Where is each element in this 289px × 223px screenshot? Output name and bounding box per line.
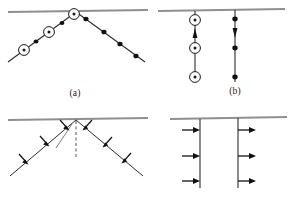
polarization-arrow xyxy=(238,127,256,133)
circled-dot-marker xyxy=(69,9,80,20)
panel-d-diagram xyxy=(150,108,289,196)
up-arrow-b xyxy=(193,28,198,38)
circled-dot-marker xyxy=(190,15,201,26)
interface-surface-d xyxy=(170,117,287,119)
circled-dot-marker xyxy=(44,27,55,38)
panel-b: (b) xyxy=(150,0,289,90)
polarization-arrow xyxy=(40,136,50,147)
filled-dot-marker xyxy=(232,75,237,80)
filled-dot-marker xyxy=(232,46,237,51)
polarization-arrow xyxy=(182,153,200,159)
circled-dot-marker xyxy=(19,45,30,56)
panel-d: (d) xyxy=(150,108,289,196)
interface-surface-b xyxy=(158,9,285,11)
physics-figure: (a) xyxy=(0,0,289,223)
polarization-arrow xyxy=(182,178,200,184)
filled-dot-marker xyxy=(34,39,39,43)
interface-surface-c xyxy=(8,118,148,120)
filled-dot-marker xyxy=(101,30,106,35)
circled-dot-marker xyxy=(190,72,201,83)
filled-dot-marker xyxy=(232,17,237,22)
polarization-arrow xyxy=(19,154,29,165)
filled-dot-marker xyxy=(133,54,138,59)
filled-dot-marker xyxy=(60,21,65,25)
polarization-arrow xyxy=(182,127,200,133)
polarization-arrow xyxy=(238,153,256,159)
filled-dot-marker xyxy=(117,42,122,47)
panel-c-diagram xyxy=(0,108,150,196)
panel-c: θi<θp (c) xyxy=(0,108,150,196)
panel-label-a: (a) xyxy=(55,88,95,98)
polarization-arrow xyxy=(238,178,256,184)
panel-b-diagram xyxy=(150,0,289,90)
panel-label-b: (b) xyxy=(215,86,255,96)
filled-dot-marker xyxy=(83,17,88,22)
panel-a: (a) xyxy=(0,0,150,90)
circled-dot-marker xyxy=(190,43,201,54)
down-arrow-b xyxy=(233,28,238,38)
panel-a-diagram xyxy=(0,0,150,90)
incident-ray-a xyxy=(8,12,76,62)
